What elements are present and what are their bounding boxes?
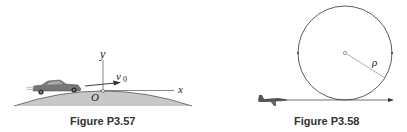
radius-label: ρ bbox=[371, 56, 377, 68]
origin-label: O bbox=[91, 91, 99, 103]
velocity-label: v bbox=[116, 70, 121, 82]
caption-figure-p3-57: Figure P3.57 bbox=[70, 115, 135, 127]
labels-layer: y x O v 0 ρ bbox=[0, 0, 407, 132]
x-axis-label: x bbox=[177, 83, 183, 95]
caption-figure-p3-58: Figure P3.58 bbox=[294, 115, 359, 127]
velocity-subscript: 0 bbox=[123, 75, 127, 84]
y-axis-label: y bbox=[99, 47, 106, 61]
